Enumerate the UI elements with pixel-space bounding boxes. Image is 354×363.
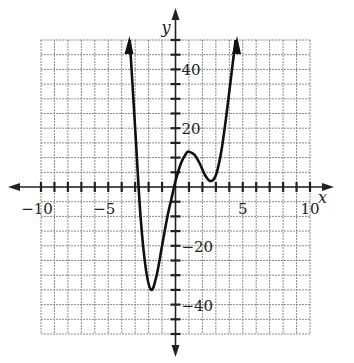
tick-labels: −10−55104020−20−40xy <box>21 18 327 315</box>
x-tick-label: −5 <box>93 200 115 218</box>
x-axis-left-arrow-icon <box>8 183 20 191</box>
y-tick-label: 20 <box>182 120 201 138</box>
function-graph: −10−55104020−20−40xy <box>0 0 354 363</box>
curve-left-arrow-icon <box>125 36 134 54</box>
x-tick-label: 10 <box>300 200 319 218</box>
y-tick-label: −40 <box>182 297 214 315</box>
y-axis-down-arrow-icon <box>172 345 180 357</box>
y-tick-label: −20 <box>182 238 214 256</box>
y-tick-label: 40 <box>182 61 201 79</box>
x-axis-label: x <box>318 188 327 207</box>
curve-right-arrow-icon <box>232 36 241 54</box>
y-axis-up-arrow-icon <box>172 8 180 20</box>
curve-arrowheads <box>125 36 242 54</box>
x-tick-label: 5 <box>238 200 248 218</box>
y-axis-label: y <box>161 18 172 37</box>
x-tick-label: −10 <box>21 200 53 218</box>
